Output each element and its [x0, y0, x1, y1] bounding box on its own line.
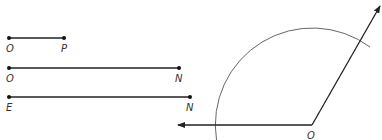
point-n	[188, 95, 192, 99]
point-o	[7, 36, 11, 40]
segment-op: O P	[6, 36, 68, 54]
angle: O	[178, 6, 380, 140]
label-e: E	[6, 102, 13, 113]
point-p	[62, 36, 66, 40]
segment-en: E N	[6, 95, 194, 113]
compass-arc	[215, 28, 370, 140]
point-e	[7, 95, 11, 99]
point-o	[7, 66, 11, 70]
geometry-diagram: O P O N E N O	[0, 0, 382, 140]
label-p: P	[61, 43, 68, 54]
point-n	[177, 66, 181, 70]
label-n: N	[175, 73, 183, 84]
label-n: N	[186, 102, 194, 113]
ray-up-right	[312, 6, 380, 125]
label-o: O	[6, 43, 14, 54]
label-o: O	[6, 73, 14, 84]
segment-on: O N	[6, 66, 183, 84]
label-vertex-o: O	[307, 130, 315, 140]
